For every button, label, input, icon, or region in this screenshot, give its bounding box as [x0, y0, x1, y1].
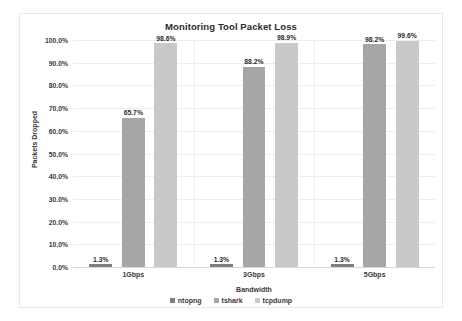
legend-label: tshark — [222, 297, 243, 304]
bar-group: 1.3%65.7%98.6%1Gbps — [73, 40, 194, 267]
bar-tcpdump-5Gbps[interactable]: 99.6% — [396, 40, 419, 267]
bar-tcpdump-3Gbps[interactable]: 98.9% — [275, 40, 298, 267]
bar-value-label: 65.7% — [124, 109, 143, 116]
y-tick-label: 20.0% — [49, 218, 68, 225]
y-tick-label: 80.0% — [49, 82, 68, 89]
plot-area: 100.0%90.0%80.0%70.0%60.0%50.0%40.0%30.0… — [73, 40, 435, 267]
bar-rect — [396, 41, 419, 267]
y-tick-label: 50.0% — [49, 150, 68, 157]
bar-value-label: 1.3% — [93, 256, 109, 263]
bar-rect — [122, 118, 145, 267]
y-tick-label: 10.0% — [49, 241, 68, 248]
x-tick-label: 1Gbps — [122, 271, 144, 278]
x-tick-label: 3Gbps — [243, 271, 265, 278]
bar-value-label: 98.2% — [365, 36, 384, 43]
bar-value-label: 1.3% — [214, 256, 230, 263]
bar-group: 1.3%88.2%98.9%3Gbps — [194, 40, 315, 267]
bar-tcpdump-1Gbps[interactable]: 98.6% — [154, 40, 177, 267]
bar-rect — [275, 43, 298, 268]
y-tick-label: 90.0% — [49, 59, 68, 66]
bar-tshark-5Gbps[interactable]: 98.2% — [363, 40, 386, 267]
category-separator — [314, 40, 315, 267]
x-axis-title: Bandwidth — [73, 286, 435, 293]
y-axis-title: Packets Dropped — [31, 95, 38, 185]
gridline — [73, 267, 435, 268]
chart-title: Monitoring Tool Packet Loss — [20, 21, 442, 32]
legend-item-tcpdump[interactable]: tcpdump — [255, 297, 293, 304]
y-tick-label: 0.0% — [53, 264, 69, 271]
bar-value-label: 1.3% — [334, 256, 350, 263]
bar-tshark-3Gbps[interactable]: 88.2% — [243, 40, 266, 267]
y-tick-label: 30.0% — [49, 195, 68, 202]
y-tick-label: 40.0% — [49, 173, 68, 180]
bar-ntopng-1Gbps[interactable]: 1.3% — [89, 40, 112, 267]
bar-rect — [89, 264, 112, 267]
bar-ntopng-5Gbps[interactable]: 1.3% — [331, 40, 354, 267]
bar-rect — [363, 44, 386, 267]
bar-ntopng-3Gbps[interactable]: 1.3% — [210, 40, 233, 267]
legend-item-ntopng[interactable]: ntopng — [170, 297, 202, 304]
bar-rect — [210, 264, 233, 267]
chart-figure: Monitoring Tool Packet Loss Packets Drop… — [19, 13, 443, 308]
x-tick-label: 5Gbps — [364, 271, 386, 278]
legend-label: tcpdump — [263, 297, 293, 304]
legend-item-tshark[interactable]: tshark — [214, 297, 243, 304]
bar-rect — [243, 67, 266, 267]
bar-value-label: 88.2% — [244, 58, 263, 65]
y-tick-label: 60.0% — [49, 127, 68, 134]
legend-label: ntopng — [178, 297, 202, 304]
bar-rect — [331, 264, 354, 267]
y-tick-label: 100.0% — [45, 37, 68, 44]
bar-rect — [154, 43, 177, 267]
category-separator — [194, 40, 195, 267]
bar-tshark-1Gbps[interactable]: 65.7% — [122, 40, 145, 267]
legend-swatch-icon — [170, 298, 175, 303]
legend-swatch-icon — [255, 298, 260, 303]
bar-value-label: 98.6% — [156, 35, 175, 42]
bar-value-label: 99.6% — [398, 32, 417, 39]
bar-value-label: 98.9% — [277, 34, 296, 41]
chart-legend: ntopngtsharktcpdump — [20, 297, 442, 304]
bar-group: 1.3%98.2%99.6%5Gbps — [314, 40, 435, 267]
legend-swatch-icon — [214, 298, 219, 303]
y-tick-label: 70.0% — [49, 105, 68, 112]
